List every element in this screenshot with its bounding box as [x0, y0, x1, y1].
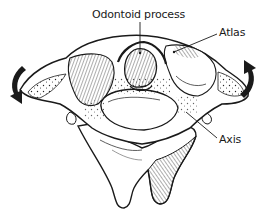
label-odontoid-process: Odontoid process [92, 9, 185, 21]
label-atlas: Atlas [219, 27, 245, 39]
rotation-arrow-right-icon [240, 60, 256, 98]
atlas-axis-illustration: Odontoid process Atlas Axis [0, 0, 270, 221]
label-axis: Axis [219, 134, 241, 146]
